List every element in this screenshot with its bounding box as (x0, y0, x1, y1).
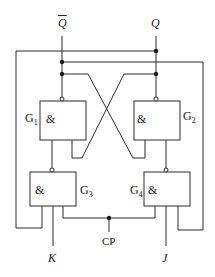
g4-inversion-bubble (164, 168, 168, 172)
q-label: Q (151, 17, 160, 29)
junction-dot (60, 72, 64, 76)
gate-g1-label: G1 (25, 112, 38, 127)
gate-subscript: 2 (192, 116, 196, 125)
g2-inversion-bubble (154, 97, 158, 101)
j-input-label: J (162, 252, 167, 264)
gate-subscript: 4 (139, 190, 143, 199)
gate-g3-label: G3 (80, 184, 93, 199)
gate-name: G (80, 183, 89, 197)
gate-g2-label: G2 (183, 110, 196, 125)
junction-dot (154, 72, 158, 76)
g4-and-symbol: & (148, 184, 157, 196)
gate-name: G (183, 109, 192, 123)
junction-dot (154, 49, 158, 53)
junction-dot (60, 60, 64, 64)
gate-name: G (25, 111, 34, 125)
k-input-label: K (48, 252, 56, 264)
junction-dot (107, 216, 111, 220)
gate-name: G (130, 183, 139, 197)
g3-and-symbol: & (35, 184, 44, 196)
g3-inversion-bubble (50, 168, 54, 172)
g1-inversion-bubble (60, 97, 64, 101)
g1-and-symbol: & (46, 113, 55, 125)
q-bar-label: Q (58, 17, 67, 29)
gate-subscript: 1 (34, 118, 38, 127)
feedback-qbar-to-g4 (62, 62, 203, 230)
clock-label: CP (102, 236, 115, 247)
gate-subscript: 3 (89, 190, 93, 199)
gate-g4-label: G4 (130, 184, 143, 199)
g2-and-symbol: & (137, 113, 146, 125)
